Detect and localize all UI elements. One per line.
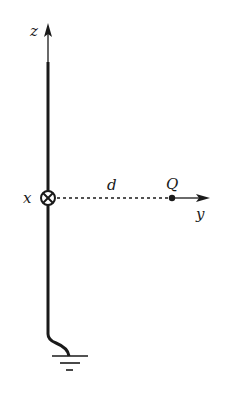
distance-label: d [107, 176, 117, 194]
diagram-canvas: z x d Q y [0, 0, 229, 393]
y-axis-label: y [195, 205, 205, 223]
x-axis-label: x [23, 189, 32, 207]
wire-lower [48, 205, 69, 356]
charge-label: Q [166, 175, 178, 193]
z-axis-label: z [29, 22, 38, 40]
ground-icon [52, 356, 88, 370]
x-axis-into-page-icon [41, 191, 55, 205]
